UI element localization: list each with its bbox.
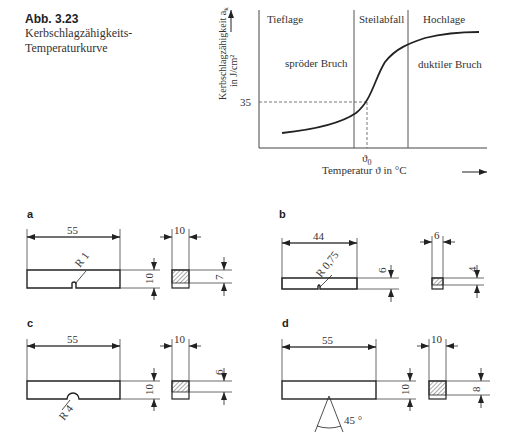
svg-text:55: 55 xyxy=(67,224,79,236)
svg-text:10: 10 xyxy=(143,384,155,396)
specimen-d: d 55 45 ° 10 10 8 xyxy=(282,317,490,432)
y-tick-35: 35 xyxy=(240,96,252,108)
label-brittle-fracture: spröder Bruch xyxy=(285,57,348,69)
bar-a xyxy=(27,270,120,288)
specimen-a-label: a xyxy=(27,208,34,220)
specimen-b: b 44 R 0,75 6 6 4 xyxy=(279,208,484,302)
svg-text:6: 6 xyxy=(434,229,440,241)
svg-text:R 1: R 1 xyxy=(72,250,91,270)
svg-text:45 °: 45 ° xyxy=(344,414,362,426)
svg-text:55: 55 xyxy=(322,334,334,346)
diagram-canvas: Tieflage Steilabfall Hochlage spröder Br… xyxy=(0,0,506,446)
svg-text:10: 10 xyxy=(174,224,186,236)
svg-text:7: 7 xyxy=(213,274,225,280)
label-ductile-fracture: duktiler Bruch xyxy=(418,58,482,70)
bar-b xyxy=(282,278,357,289)
svg-text:10: 10 xyxy=(431,333,443,345)
bar-c xyxy=(27,381,120,399)
svg-text:10: 10 xyxy=(399,384,411,396)
region-label-steilabfall: Steilabfall xyxy=(359,13,404,25)
svg-text:8: 8 xyxy=(470,386,482,392)
svg-text:R 0,75: R 0,75 xyxy=(313,248,341,279)
specimen-c-label: c xyxy=(27,317,33,329)
svg-text:10: 10 xyxy=(143,273,155,285)
specimen-a: a 55 R 1 10 10 7 xyxy=(27,208,232,300)
svg-text:6: 6 xyxy=(213,369,225,375)
specimen-c: c 55 R 4 10 10 6 xyxy=(27,317,232,422)
svg-text:R 4: R 4 xyxy=(56,402,75,422)
svg-text:10: 10 xyxy=(174,333,186,345)
svg-text:4: 4 xyxy=(466,266,478,272)
region-label-tieflage: Tieflage xyxy=(267,13,303,25)
svg-text:6: 6 xyxy=(376,267,388,273)
transition-curve xyxy=(282,32,479,133)
toughness-temperature-chart: Tieflage Steilabfall Hochlage spröder Br… xyxy=(217,7,487,176)
region-label-hochlage: Hochlage xyxy=(423,13,465,25)
svg-text:in J/cm²: in J/cm² xyxy=(228,55,239,87)
y-axis-label: Kerbschlagzähigkeit ak in J/cm² xyxy=(217,7,239,100)
svg-text:55: 55 xyxy=(67,333,79,345)
svg-text:44: 44 xyxy=(313,230,325,242)
specimen-b-label: b xyxy=(279,208,286,220)
specimen-d-label: d xyxy=(282,317,289,329)
x-axis-label: Temperatur ϑ in °C xyxy=(322,164,407,176)
